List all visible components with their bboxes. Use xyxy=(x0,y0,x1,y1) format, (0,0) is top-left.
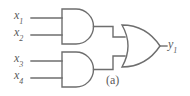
wire-and-top-to-or xyxy=(94,27,126,38)
input-label-x1: x1 xyxy=(14,9,23,24)
input-label-x2: x2 xyxy=(14,26,23,41)
circuit-diagram-svg xyxy=(0,0,190,96)
logic-circuit-figure: x1 x2 x3 x4 y1 (a) xyxy=(0,0,190,96)
and-gate-top xyxy=(62,9,94,44)
wire-and-bottom-to-or xyxy=(94,56,126,70)
output-label-y1: y1 xyxy=(168,38,177,53)
or-gate xyxy=(122,25,160,67)
and-gate-bottom xyxy=(62,52,93,87)
input-label-x3: x3 xyxy=(14,52,23,67)
input-label-x4: x4 xyxy=(14,69,23,84)
figure-caption: (a) xyxy=(106,74,119,86)
